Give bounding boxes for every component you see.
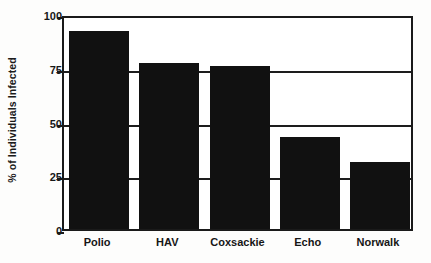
y-axis-tick-mark [57,71,64,73]
plot-area [62,16,413,231]
x-axis-category-label: Coxsackie [202,236,272,248]
y-axis-title: % of Individuals Infected [0,0,24,240]
bar-chart-figure: % of Individuals Infected 0255075100 Pol… [0,0,431,263]
x-axis-category-label: HAV [132,236,202,248]
bar-series [64,18,411,229]
x-axis-category-labels: PolioHAVCoxsackieEchoNorwalk [62,236,413,258]
y-axis-tick-mark [57,232,64,234]
bar [210,66,270,229]
y-axis-tick-mark [57,17,64,19]
bar [69,31,129,229]
y-axis-tick-labels: 0255075100 [24,0,62,263]
x-axis-category-label: Norwalk [343,236,413,248]
y-axis-title-text: % of Individuals Infected [6,57,18,183]
x-axis-category-label: Echo [273,236,343,248]
bar [139,63,199,229]
bar [350,162,410,229]
y-axis-tick-mark [57,125,64,127]
y-axis-tick-mark [57,178,64,180]
x-axis-category-label: Polio [62,236,132,248]
bar [280,137,340,229]
